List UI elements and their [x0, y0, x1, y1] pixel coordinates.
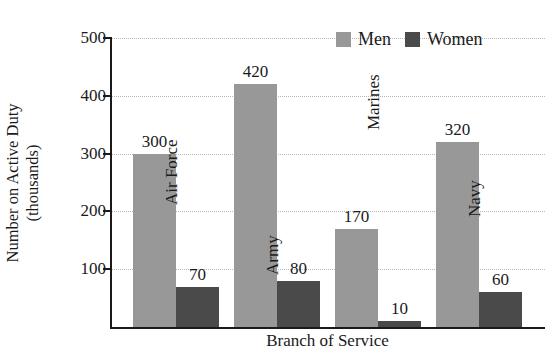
legend-label: Women: [427, 30, 483, 48]
y-axis-line: [110, 38, 112, 327]
bar-value-men: 420: [228, 63, 283, 80]
y-axis-tick-label: 400: [50, 87, 106, 104]
bar-women-marines: [378, 321, 421, 327]
y-axis-tick: [103, 95, 112, 97]
y-axis-tick: [103, 37, 112, 39]
bar-value-women: 70: [170, 266, 225, 283]
bar-value-men: 170: [329, 208, 384, 225]
bar-women-army: [277, 281, 320, 327]
y-axis-title: Number on Active Duty (thousands): [0, 38, 44, 327]
y-axis-tick: [103, 153, 112, 155]
bar-women-air-force: [176, 287, 219, 327]
bar-men-navy: [436, 142, 479, 327]
legend-label: Men: [358, 30, 391, 48]
bar-value-men: 320: [430, 121, 485, 138]
bar-women-navy: [479, 292, 522, 327]
y-axis-title-line-2: (thousands): [22, 103, 42, 262]
category-label-army: Army: [264, 235, 281, 275]
x-axis-line: [110, 327, 545, 329]
y-axis-tick: [103, 268, 112, 270]
bar-men-army: [234, 84, 277, 327]
y-axis-tick-label: 300: [50, 145, 106, 162]
legend-item-women[interactable]: Women: [405, 30, 483, 48]
category-label-navy: Navy: [466, 180, 483, 217]
category-label-marines: Marines: [365, 75, 382, 131]
y-axis-tick-label: 200: [50, 202, 106, 219]
legend-swatch-men: [336, 32, 351, 47]
bar-chart: Number on Active Duty (thousands) 100200…: [0, 0, 553, 359]
x-axis-title: Branch of Service: [110, 331, 545, 351]
legend-swatch-women: [405, 32, 420, 47]
gridline: [110, 96, 545, 98]
bar-value-women: 10: [372, 300, 427, 317]
category-label-air-force: Air Force: [163, 140, 180, 206]
plot-area: 30070Air Force42080Army17010Marines32060…: [110, 38, 545, 327]
bar-value-women: 60: [473, 271, 528, 288]
y-axis-tick: [103, 210, 112, 212]
y-axis-tick-label: 500: [50, 29, 106, 46]
legend-item-men[interactable]: Men: [336, 30, 391, 48]
chart-legend: MenWomen: [336, 30, 483, 48]
y-axis-tick-labels: 100200300400500: [46, 0, 106, 359]
y-axis-title-line-1: Number on Active Duty: [2, 103, 22, 262]
y-axis-tick-label: 100: [50, 260, 106, 277]
